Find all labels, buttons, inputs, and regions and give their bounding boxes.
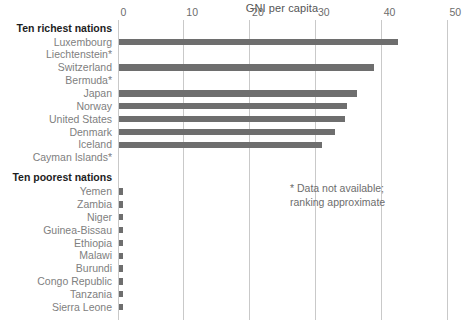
bar xyxy=(119,278,123,284)
category-label: Switzerland xyxy=(0,61,112,74)
bar xyxy=(119,253,123,259)
chart-row: Guinea-Bissau xyxy=(0,224,471,237)
category-label: Liechtenstein* xyxy=(0,48,112,61)
chart-row: Congo Republic xyxy=(0,275,471,288)
category-label: Burundi xyxy=(0,262,112,275)
section-heading-richest: Ten richest nations xyxy=(0,22,112,35)
chart-row: Liechtenstein* xyxy=(0,48,471,61)
chart-row: Denmark xyxy=(0,126,471,139)
chart-row: Niger xyxy=(0,211,471,224)
chart-row: Sierra Leone xyxy=(0,301,471,314)
bar xyxy=(119,103,348,109)
section-heading-poorest: Ten poorest nations xyxy=(0,171,112,184)
chart-row: Switzerland xyxy=(0,61,471,74)
chart-title: GNI per capita xyxy=(118,2,447,14)
category-label: Congo Republic xyxy=(0,275,112,288)
chart-row: Burundi xyxy=(0,262,471,275)
bar xyxy=(119,201,123,207)
category-label: Luxembourg xyxy=(0,36,112,49)
chart-row: United States xyxy=(0,113,471,126)
gni-per-capita-chart: GNI per capita 01020304050 Ten richest n… xyxy=(0,0,471,329)
bar xyxy=(119,291,123,297)
bar xyxy=(119,64,374,70)
chart-row: Japan xyxy=(0,87,471,100)
chart-row: Tanzania xyxy=(0,288,471,301)
category-label: Cayman Islands* xyxy=(0,151,112,164)
x-tick-label-50: 50 xyxy=(447,6,462,18)
chart-row: Norway xyxy=(0,100,471,113)
bar xyxy=(119,188,123,194)
footnote-annotation: * Data not available; ranking approximat… xyxy=(290,182,460,209)
category-label: Sierra Leone xyxy=(0,301,112,314)
category-label: Tanzania xyxy=(0,288,112,301)
bar xyxy=(119,39,399,45)
bar xyxy=(119,240,123,246)
category-label: Japan xyxy=(0,87,112,100)
category-label: Iceland xyxy=(0,138,112,151)
bar xyxy=(119,304,123,310)
chart-row: Luxembourg xyxy=(0,36,471,49)
category-label: Zambia xyxy=(0,198,112,211)
bar xyxy=(119,116,345,122)
chart-row: Bermuda* xyxy=(0,74,471,87)
category-label: United States xyxy=(0,113,112,126)
category-label: Bermuda* xyxy=(0,74,112,87)
category-label: Yemen xyxy=(0,185,112,198)
bar xyxy=(119,90,358,96)
category-label: Ethiopia xyxy=(0,237,112,250)
chart-row: Cayman Islands* xyxy=(0,151,471,164)
section-heading-row: Ten richest nations xyxy=(0,22,471,35)
bar xyxy=(119,129,335,135)
x-tick-label-0: 0 xyxy=(118,6,127,18)
x-tick-label-10: 10 xyxy=(183,6,198,18)
category-label: Norway xyxy=(0,100,112,113)
x-tick-label-40: 40 xyxy=(381,6,396,18)
bar xyxy=(119,227,123,233)
category-label: Niger xyxy=(0,211,112,224)
bar xyxy=(119,142,322,148)
category-label: Denmark xyxy=(0,126,112,139)
chart-row: Iceland xyxy=(0,138,471,151)
x-tick-label-30: 30 xyxy=(315,6,330,18)
x-tick-label-20: 20 xyxy=(249,6,264,18)
chart-row: Ethiopia xyxy=(0,237,471,250)
bar xyxy=(119,265,123,271)
chart-row: Malawi xyxy=(0,249,471,262)
category-label: Malawi xyxy=(0,249,112,262)
category-label: Guinea-Bissau xyxy=(0,224,112,237)
bar xyxy=(119,214,123,220)
